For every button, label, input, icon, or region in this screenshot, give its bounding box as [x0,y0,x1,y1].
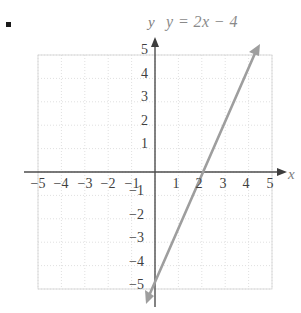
y-tick-label: 3 [126,89,148,105]
x-tick-label: 4 [235,176,257,192]
y-tick-label: −3 [122,230,144,246]
x-tick-label: 1 [165,176,187,192]
x-tick-label: −3 [74,176,96,192]
y-tick-label: 4 [126,66,148,82]
equation-title: y = 2x − 4 [166,13,238,31]
y-tick-label: −4 [122,254,144,270]
function-line [145,44,260,304]
y-axis-label: y [148,14,155,31]
x-tick-label: −4 [50,176,72,192]
list-bullet-marker [6,22,11,27]
y-tick-label: −1 [122,183,144,199]
y-tick-label: 1 [126,136,148,152]
x-tick-label: 2 [188,176,210,192]
y-tick-label: 2 [126,113,148,129]
coordinate-plane-svg [0,0,301,313]
y-tick-label: 5 [126,42,148,58]
x-tick-label: −5 [27,176,49,192]
x-tick-label: 3 [212,176,234,192]
x-tick-label: −2 [97,176,119,192]
graph-figure: y y = 2x − 4 x −5−4−3−2−112345 54321−1−2… [0,0,301,313]
x-tick-label: 5 [259,176,281,192]
y-tick-label: −5 [122,277,144,293]
y-tick-label: −2 [122,207,144,223]
x-axis-label: x [288,166,295,183]
